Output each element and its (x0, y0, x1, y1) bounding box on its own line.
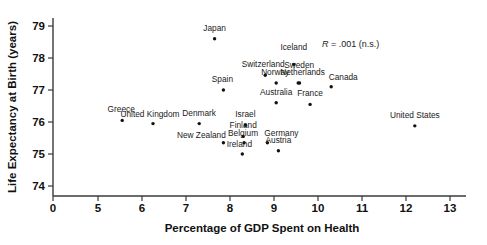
point-marker (298, 81, 301, 84)
data-point: Japan (203, 23, 226, 41)
x-tick-label: 7 (183, 202, 189, 214)
point-label: Netherlands (280, 67, 325, 77)
point-label: Japan (203, 23, 226, 33)
x-axis-title: Percentage of GDP Spent on Health (165, 222, 360, 234)
point-marker (275, 81, 278, 84)
data-point: France (297, 88, 323, 106)
y-tick-label: 79 (32, 20, 45, 32)
point-marker (213, 37, 216, 40)
scatter-chart: 05678910111213 747576777879 JapanSwitzer… (0, 0, 487, 245)
x-axis-ticks: 05678910111213 (50, 196, 457, 214)
point-label: Spain (212, 74, 234, 84)
point-label: Israel (235, 109, 255, 119)
point-label: United Kingdom (120, 109, 179, 119)
data-point: Denmark (182, 108, 217, 126)
point-label: Iceland (280, 42, 307, 52)
data-point: Ireland (227, 139, 253, 156)
point-label: United States (390, 110, 440, 120)
data-point: United States (390, 110, 440, 128)
x-tick-label: 0 (50, 202, 56, 214)
y-tick-label: 76 (32, 116, 45, 128)
point-label: Ireland (227, 139, 253, 149)
x-tick-label: 9 (271, 202, 277, 214)
point-label: Australia (260, 87, 293, 97)
x-tick-label: 5 (95, 202, 102, 214)
x-tick-label: 8 (227, 202, 234, 214)
point-label: Canada (329, 72, 358, 82)
data-point: Austria (265, 135, 291, 153)
point-label: Denmark (182, 108, 217, 118)
correlation-annotation: R = .001 (n.s.) (322, 39, 379, 49)
x-tick-label: 12 (400, 202, 413, 214)
point-marker (222, 88, 225, 91)
point-marker (241, 152, 244, 155)
point-label: France (297, 88, 323, 98)
x-tick-label: 10 (312, 202, 325, 214)
point-marker (308, 103, 311, 106)
y-axis-title: Life Expectancy at Birth (years) (6, 21, 18, 193)
x-tick-label: 11 (356, 202, 369, 214)
point-marker (275, 101, 278, 104)
point-marker (277, 149, 280, 152)
point-marker (198, 122, 201, 125)
data-point: New Zealand (177, 130, 226, 145)
data-point: United Kingdom (120, 109, 179, 126)
point-marker (121, 119, 124, 122)
x-tick-label: 6 (139, 202, 145, 214)
point-marker (222, 141, 225, 144)
y-tick-label: 77 (32, 84, 45, 96)
point-marker (151, 122, 154, 125)
point-label: Austria (265, 135, 291, 145)
point-marker (330, 85, 333, 88)
data-point: Australia (260, 87, 293, 105)
y-tick-label: 74 (32, 180, 45, 192)
chart-canvas: 05678910111213 747576777879 JapanSwitzer… (0, 0, 487, 245)
data-point: Canada (329, 72, 358, 89)
point-label: Belgium (228, 128, 258, 138)
x-tick-label: 13 (444, 202, 457, 214)
point-label: New Zealand (177, 130, 226, 140)
y-axis-ticks: 747576777879 (32, 20, 53, 192)
data-points: JapanSwitzerlandIcelandNorwaySwedenNethe… (108, 23, 440, 156)
data-point: Spain (212, 74, 234, 92)
point-marker (413, 124, 416, 127)
data-point: Netherlands (280, 67, 325, 85)
chart-annotations: R = .001 (n.s.) (322, 39, 379, 49)
y-tick-label: 75 (32, 148, 45, 160)
y-tick-label: 78 (32, 52, 45, 64)
